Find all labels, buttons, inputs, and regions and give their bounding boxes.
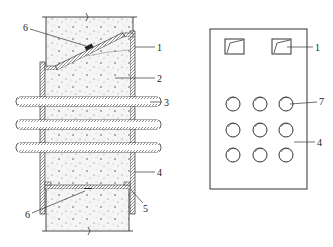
hole-r3c3 xyxy=(279,148,293,162)
fill-between-pipes-2 xyxy=(46,129,130,142)
vent-right xyxy=(272,39,291,54)
label-4: 4 xyxy=(157,167,162,178)
fill-between-pipes-1 xyxy=(46,106,130,119)
pipe-holes xyxy=(226,97,293,162)
lower-concrete xyxy=(42,189,133,235)
label-1: 1 xyxy=(157,42,162,53)
pipes xyxy=(16,97,161,152)
label-7: 7 xyxy=(319,96,324,107)
pipe-2 xyxy=(16,120,161,129)
hole-r2c2 xyxy=(253,123,267,137)
label-6-top: 6 xyxy=(23,22,28,33)
vent-left xyxy=(225,39,244,54)
hole-r1c1 xyxy=(226,97,240,111)
pipe-3 xyxy=(16,143,161,152)
hole-r3c1 xyxy=(226,148,240,162)
label-6-bottom: 6 xyxy=(25,209,30,220)
hole-r3c2 xyxy=(253,148,267,162)
label-1-right: 1 xyxy=(315,42,320,53)
label-5: 5 xyxy=(143,203,148,214)
diagram-canvas: 1 2 3 4 5 6 6 xyxy=(0,0,333,247)
label-3: 3 xyxy=(164,97,169,108)
hole-r2c1 xyxy=(226,123,240,137)
left-section-view: 1 2 3 4 5 6 6 xyxy=(16,13,169,235)
hole-r2c3 xyxy=(279,123,293,137)
label-2: 2 xyxy=(157,73,162,84)
right-elevation-view: 1 7 4 xyxy=(210,29,324,189)
pipe-1 xyxy=(16,97,161,106)
label-4-right: 4 xyxy=(317,137,322,148)
hole-r1c2 xyxy=(253,97,267,111)
